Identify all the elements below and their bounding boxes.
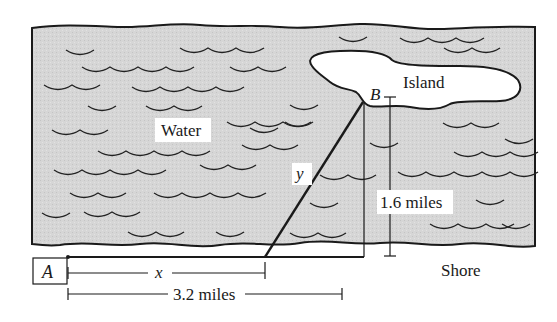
horizontal-dimension-label: 3.2 miles	[173, 285, 235, 304]
shore-label: Shore	[441, 261, 481, 280]
point-a-label: A	[41, 262, 54, 282]
water-label: Water	[161, 121, 201, 140]
segment-x-label: x	[154, 263, 163, 282]
segment-y-label: y	[294, 164, 304, 183]
x-dimension	[68, 262, 265, 279]
island-label: Island	[403, 73, 445, 92]
vertical-dimension-label: 1.6 miles	[380, 193, 442, 212]
boat-island-diagram: A Water Island B y 1.6 miles x 3.2 miles…	[0, 0, 557, 322]
point-b-label: B	[370, 85, 381, 104]
water-region	[32, 24, 535, 247]
